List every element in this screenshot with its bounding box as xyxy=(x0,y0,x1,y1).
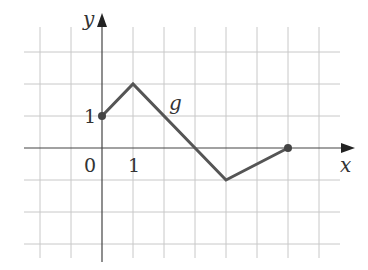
y-tick-label: 1 xyxy=(84,105,96,127)
y-axis-arrow-icon xyxy=(97,13,107,27)
origin-label: 0 xyxy=(84,154,96,176)
x-axis-arrow-icon xyxy=(341,143,355,153)
x-tick-label: 1 xyxy=(128,154,140,176)
grid xyxy=(24,27,340,258)
x-axis xyxy=(24,143,355,153)
x-axis-label: x xyxy=(340,153,351,177)
end-point-dot xyxy=(284,144,292,152)
graph-canvas: y x 0 1 1 g xyxy=(0,0,368,270)
y-axis xyxy=(97,13,107,262)
y-axis-label: y xyxy=(82,7,95,31)
function-label: g xyxy=(169,91,182,115)
start-point-dot xyxy=(98,112,106,120)
